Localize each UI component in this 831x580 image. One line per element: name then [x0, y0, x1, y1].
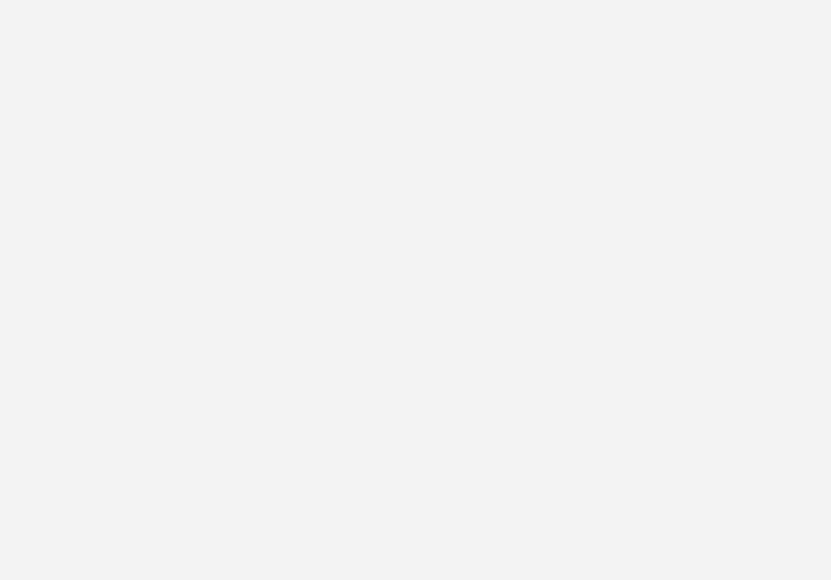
- stacked-area-plot: [0, 0, 831, 580]
- chart-figure: [0, 0, 831, 580]
